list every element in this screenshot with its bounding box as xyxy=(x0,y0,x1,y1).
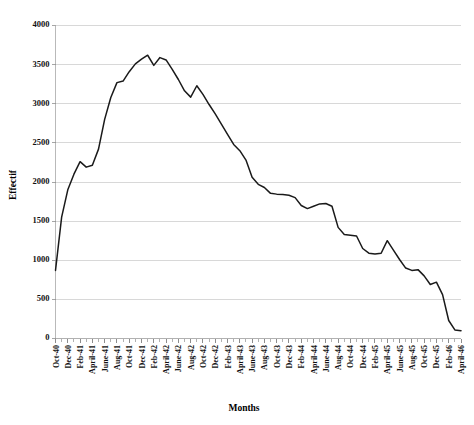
y-tick-labels-group: 05001000150020002500300035004000 xyxy=(33,19,50,342)
x-tick-label: Aug-43 xyxy=(260,345,269,370)
y-axis-title: Effectif xyxy=(8,169,18,200)
y-tick-label: 1000 xyxy=(33,254,50,264)
x-tick-label: Aug-42 xyxy=(187,345,196,370)
data-series-group xyxy=(56,55,462,330)
x-tick-labels-group: Oct-40Dec-40Feb-41April-41June-41Aug-41O… xyxy=(52,345,467,374)
x-tick-label: April-42 xyxy=(162,345,171,374)
x-tick-label: Dec-42 xyxy=(211,345,220,369)
y-tick-label: 3000 xyxy=(33,98,50,108)
x-tick-label: Oct-42 xyxy=(199,345,208,368)
x-tick-label: Aug-44 xyxy=(334,345,343,370)
x-tick-label: April-43 xyxy=(236,345,245,374)
x-tick-label: June-44 xyxy=(322,345,331,372)
line-chart: 05001000150020002500300035004000 Oct-40D… xyxy=(0,0,474,425)
x-tick-label: Feb-41 xyxy=(76,345,85,369)
x-tick-label: April-45 xyxy=(383,345,392,374)
data-line-effectif xyxy=(56,55,462,330)
x-tick-label: Oct-43 xyxy=(273,345,282,368)
y-axis-group xyxy=(52,26,56,339)
x-tick-label: April-46 xyxy=(457,345,466,374)
x-tick-label: Dec-44 xyxy=(359,345,368,369)
x-tick-label: Oct-41 xyxy=(125,345,134,368)
chart-container: 05001000150020002500300035004000 Oct-40D… xyxy=(0,0,474,425)
y-tick-label: 0 xyxy=(45,332,49,342)
x-tick-label: Aug-45 xyxy=(408,345,417,370)
x-tick-label: June-43 xyxy=(248,345,257,372)
x-tick-label: Dec-40 xyxy=(64,345,73,369)
y-tick-label: 2000 xyxy=(33,176,50,186)
x-tick-label: Feb-44 xyxy=(297,345,306,369)
x-tick-label: April-44 xyxy=(310,345,319,374)
x-tick-label: Aug-41 xyxy=(113,345,122,370)
x-tick-label: Feb-42 xyxy=(150,345,159,369)
x-tick-marks-group xyxy=(56,339,462,344)
x-tick-label: Dec-43 xyxy=(285,345,294,369)
x-tick-label: Oct-45 xyxy=(420,345,429,368)
gridlines-group xyxy=(56,26,462,339)
x-tick-label: June-41 xyxy=(101,345,110,372)
x-tick-label: April-41 xyxy=(88,345,97,374)
y-tick-label: 2500 xyxy=(33,137,50,147)
y-tick-label: 1500 xyxy=(33,215,50,225)
x-tick-label: Dec-45 xyxy=(432,345,441,369)
y-tick-label: 500 xyxy=(37,293,50,303)
y-tick-label: 3500 xyxy=(33,59,50,69)
x-tick-label: Oct-44 xyxy=(346,345,355,368)
x-tick-label: June-45 xyxy=(396,345,405,372)
y-tick-label: 4000 xyxy=(33,19,50,29)
x-tick-label: Feb-43 xyxy=(224,345,233,369)
x-tick-label: Feb-46 xyxy=(445,345,454,369)
x-tick-label: June-42 xyxy=(174,345,183,372)
x-tick-label: Dec-41 xyxy=(138,345,147,369)
x-tick-label: Oct-40 xyxy=(52,345,61,368)
x-axis-title: Months xyxy=(228,403,259,413)
x-tick-label: Feb-45 xyxy=(371,345,380,369)
